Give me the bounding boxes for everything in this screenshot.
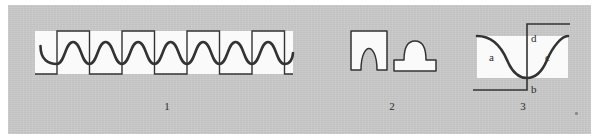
curve-label-c: c [545, 51, 550, 63]
figure-canvas: a b c d 1 2 3 [0, 0, 598, 134]
curve-label-d: d [531, 32, 537, 44]
panel-2-group [351, 31, 436, 71]
curve-label-a: a [489, 51, 494, 63]
caption-3: 3 [508, 101, 538, 112]
panel-3-group: a b c d [473, 24, 570, 95]
bump-pulse-shape [394, 41, 436, 71]
curve-label-b: b [531, 83, 537, 95]
notched-rectangle-shape [351, 31, 387, 70]
caption-1: 1 [152, 101, 182, 112]
scan-artifact-speck [575, 112, 578, 115]
caption-2: 2 [377, 101, 407, 112]
panel-1-group [35, 31, 293, 74]
figure-artwork: a b c d [0, 0, 598, 134]
